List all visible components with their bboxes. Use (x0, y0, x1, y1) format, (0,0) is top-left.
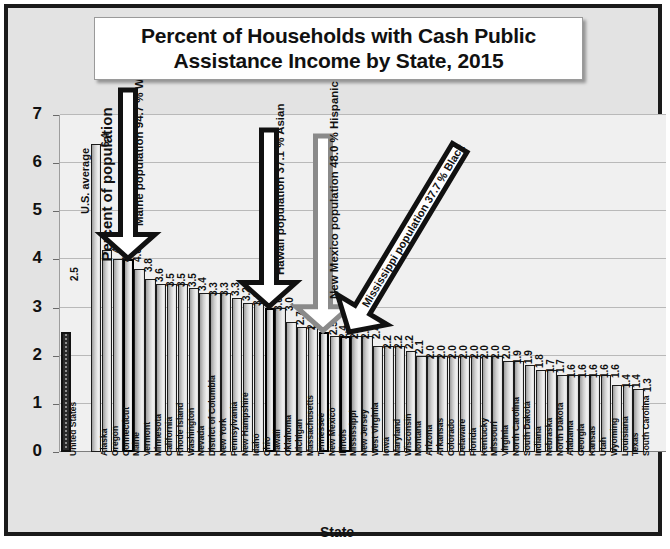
x-category-north-carolina: North Carolina (511, 397, 521, 456)
x-category-missouri: Missouri (489, 421, 499, 456)
x-category-indiana: Indiana (533, 426, 543, 456)
bar-value-label-california: 3.5 (165, 273, 176, 287)
x-category-district-of-columbia: District of Columbia (207, 375, 217, 456)
x-category-nebraska: Nebraska (544, 418, 554, 456)
bar-value-label-wyoming: 1.6 (610, 364, 621, 378)
x-category-south-dakota: South Dakota (522, 401, 532, 456)
x-category-delaware: Delaware (457, 419, 467, 456)
annotation-text-hawaii: Hawaii population 37.1 % Asian (274, 103, 286, 274)
y-tick-mark-5 (53, 211, 59, 212)
bar-value-label-pennsylvania: 3.3 (230, 282, 241, 296)
x-category-rhode-island: Rhode Island (175, 403, 185, 456)
bar-value-label-alabama: 1.6 (566, 364, 577, 378)
x-category-idaho: Idaho (251, 433, 261, 456)
x-category-alaska: Alaska (99, 429, 109, 456)
bar-value-label-georgia: 1.6 (577, 364, 588, 378)
bar-value-label-nebraska: 1.7 (545, 359, 556, 373)
bar-value-label-iowa: 2.2 (382, 335, 393, 349)
y-tick-mark-4 (53, 259, 59, 260)
bar-value-label-north-carolina: 1.9 (512, 350, 523, 364)
x-category-florida: Florida (468, 428, 478, 456)
x-category-washington: Washington (186, 408, 196, 456)
x-category-minnesota: Minnesota (153, 414, 163, 456)
x-category-south-carolina: South Carolina (641, 396, 651, 456)
bar-value-label-north-dakota: 1.7 (555, 359, 566, 373)
bar-value-label-colorado: 2.0 (447, 345, 458, 359)
annotation-arrow-maine (101, 90, 155, 258)
bar-value-label-arizona: 2.0 (425, 345, 436, 359)
x-category-new-mexico: New Mexico (327, 407, 337, 456)
x-category-louisiana: Louisiana (620, 416, 630, 456)
y-tick-mark-1 (53, 404, 59, 405)
bar-value-label-florida: 2.0 (469, 345, 480, 359)
y-tick-label-0: 0 (8, 441, 42, 461)
bar-value-label-texas: 1.4 (631, 374, 642, 388)
x-category-connecticut: Connecticut (121, 407, 131, 456)
x-category-virginia: Virginia (500, 425, 510, 456)
x-category-utah: Utah (598, 437, 608, 456)
y-tick-label-2: 2 (8, 345, 42, 365)
x-category-oregon: Oregon (110, 426, 120, 456)
bar-value-label-louisiana: 1.4 (621, 374, 632, 388)
x-category-united-states: United States (68, 402, 78, 456)
bar-value-label-montana: 2.1 (414, 340, 425, 354)
y-tick-label-3: 3 (8, 297, 42, 317)
bar-value-label-vermont: 3.8 (143, 258, 154, 272)
bar-value-label-wisconsin: 2.2 (404, 335, 415, 349)
us-average-reference-label: U.S. average (79, 148, 91, 214)
bar-ohio[interactable] (254, 303, 264, 452)
x-category-nevada: Nevada (196, 426, 206, 456)
x-category-maine: Maine (131, 432, 141, 456)
y-tick-label-4: 4 (8, 248, 42, 268)
bar-value-label-minnesota: 3.6 (154, 268, 165, 282)
bar-value-label-south-carolina: 1.3 (642, 379, 653, 393)
x-category-hawaii: Hawaii (272, 429, 282, 456)
x-category-georgia: Georgia (576, 424, 586, 456)
bar-value-label-maryland: 2.2 (393, 335, 404, 349)
x-category-tennessee: Tennessee (316, 413, 326, 456)
x-category-kansas: Kansas (587, 426, 597, 456)
x-category-west-virginia: West Virginia (370, 402, 380, 456)
x-category-pennsylvania: Pennsylvania (229, 402, 239, 456)
annotation-text-new-mexico: New Mexico population 48.0 % Hispanic (328, 81, 340, 299)
annotation-arrow-hawaii (242, 130, 296, 307)
x-category-ohio: Ohio (262, 437, 272, 456)
x-category-colorado: Colorado (446, 419, 456, 456)
y-tick-label-6: 6 (8, 152, 42, 172)
y-tick-label-1: 1 (8, 393, 42, 413)
y-tick-label-7: 7 (8, 104, 42, 124)
y-tick-mark-6 (53, 163, 59, 164)
x-category-oklahoma: Oklahoma (283, 415, 293, 456)
y-tick-mark-0 (53, 452, 59, 453)
chart-title-line-1: Percent of Households with Cash Public (141, 24, 536, 49)
x-category-maryland: Maryland (392, 419, 402, 456)
x-category-wyoming: Wyoming (609, 418, 619, 456)
x-category-kentucky: Kentucky (479, 418, 489, 456)
y-tick-mark-3 (53, 308, 59, 309)
bar-value-label-indiana: 1.8 (534, 354, 545, 368)
bar-value-label-south-dakota: 1.9 (523, 350, 534, 364)
x-category-montana: Montana (413, 421, 423, 456)
bar-value-label-kentucky: 2.0 (479, 345, 490, 359)
x-category-michigan: Michigan (294, 419, 304, 456)
bar-value-label-new-york: 3.3 (219, 282, 230, 296)
page-title: Percent of Households with Cash Public A… (135, 24, 542, 74)
y-tick-mark-2 (53, 356, 59, 357)
x-category-north-dakota: North Dakota (555, 403, 565, 456)
x-axis-title: State (8, 524, 666, 540)
annotation-text-maine: Maine population 94.7 % White (133, 58, 145, 226)
x-category-wisconsin: Wisconsin (403, 414, 413, 456)
x-category-arkansas: Arkansas (435, 418, 445, 456)
bar-value-label-virginia: 2.0 (501, 345, 512, 359)
chart-frame: Percent of Households with Cash Public A… (4, 4, 662, 536)
bar-value-label-rhode-island: 3.5 (176, 273, 187, 287)
bar-value-label-utah: 1.6 (599, 364, 610, 378)
x-category-texas: Texas (630, 433, 640, 456)
x-category-arizona: Arizona (424, 425, 434, 456)
bar-value-label-kansas: 1.6 (588, 364, 599, 378)
bar-value-label-united-states: 2.5 (69, 267, 80, 281)
x-category-alabama: Alabama (565, 421, 575, 456)
bar-value-label-missouri: 2.0 (490, 345, 501, 359)
x-category-massachusetts: Massachusetts (305, 395, 315, 456)
bar-value-label-arkansas: 2.0 (436, 345, 447, 359)
